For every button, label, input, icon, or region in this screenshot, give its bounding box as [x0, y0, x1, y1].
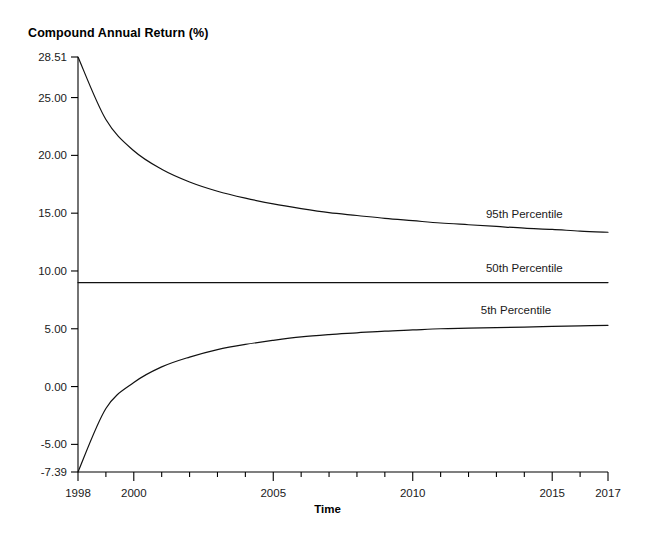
- x-tick-label: 2000: [121, 487, 147, 499]
- y-tick-label: 25.00: [38, 92, 67, 104]
- x-axis-title: Time: [314, 503, 341, 515]
- series-annotations-group: 95th Percentile50th Percentile5th Percen…: [481, 208, 563, 316]
- x-tick-label: 2017: [595, 487, 621, 499]
- series-label-1: 95th Percentile: [486, 208, 563, 220]
- series-line-3: [78, 325, 608, 472]
- x-tick-label: 2010: [400, 487, 426, 499]
- series-label-3: 5th Percentile: [481, 304, 551, 316]
- x-tick-label: 2015: [539, 487, 565, 499]
- series-label-2: 50th Percentile: [486, 262, 563, 274]
- y-tick-label: -7.39: [41, 466, 67, 478]
- x-tick-label: 2005: [260, 487, 286, 499]
- y-tick-label: 10.00: [38, 265, 67, 277]
- chart-plot-area: 28.5125.0020.0015.0010.005.000.00-5.00-7…: [0, 0, 645, 543]
- y-tick-label: 15.00: [38, 207, 67, 219]
- y-tick-label: 0.00: [45, 381, 67, 393]
- axes-group: 28.5125.0020.0015.0010.005.000.00-5.00-7…: [38, 51, 621, 499]
- compound-annual-return-chart: Compound Annual Return (%) 28.5125.0020.…: [0, 0, 645, 543]
- y-tick-label: 5.00: [45, 323, 67, 335]
- x-axis-title-wrap: Time: [0, 503, 645, 515]
- y-tick-label: 20.00: [38, 149, 67, 161]
- y-tick-label: 28.51: [38, 51, 67, 63]
- series-line-1: [78, 57, 608, 232]
- x-tick-label: 1998: [65, 487, 91, 499]
- y-tick-label: -5.00: [41, 438, 67, 450]
